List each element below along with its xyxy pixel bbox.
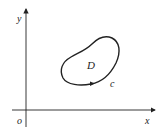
curve-direction-arrow-icon (90, 82, 95, 87)
origin-label: o (17, 115, 22, 126)
region-label-d: D (86, 59, 95, 71)
x-axis-label: x (144, 115, 150, 126)
y-axis-label: y (16, 13, 22, 24)
diagram-canvas: D c y x o (0, 0, 165, 134)
curve-label-c: c (110, 78, 115, 89)
